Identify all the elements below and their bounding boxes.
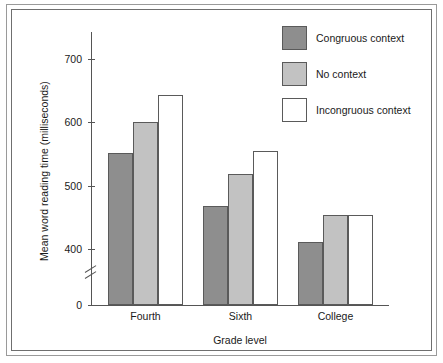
y-tick-label-400: 400 <box>46 244 82 255</box>
y-tick-500 <box>88 186 95 187</box>
legend-swatch-icon-2 <box>282 98 307 122</box>
bar-group-fourth <box>108 0 183 305</box>
y-axis-line <box>91 32 92 306</box>
x-label-college: College <box>291 310 381 322</box>
x-label-fourth: Fourth <box>101 310 191 322</box>
legend-item-1[interactable]: No context <box>282 62 432 88</box>
y-tick-700 <box>88 59 95 60</box>
y-axis-title: Mean word reading time (milliseconds) <box>38 66 50 276</box>
y-tick-400 <box>88 249 95 250</box>
y-tick-label-500: 500 <box>46 181 82 192</box>
legend-item-2[interactable]: Incongruous context <box>282 98 432 124</box>
bar-chart-plot: 4005006007000 Mean word reading time (mi… <box>0 0 443 363</box>
x-axis-title: Grade level <box>91 334 389 346</box>
y-tick-label-0: 0 <box>46 300 82 311</box>
figure-container: 4005006007000 Mean word reading time (mi… <box>0 0 443 363</box>
bar-fourth-series-0 <box>108 153 133 305</box>
y-tick-0 <box>88 305 95 306</box>
bar-fourth-series-1 <box>133 122 158 305</box>
legend-item-0[interactable]: Congruous context <box>282 26 432 52</box>
legend-label-1: No context <box>316 68 366 80</box>
bar-sixth-series-1 <box>228 174 253 305</box>
legend-label-2: Incongruous context <box>316 104 411 116</box>
legend-swatch-icon-0 <box>282 26 307 50</box>
legend-label-0: Congruous context <box>316 32 404 44</box>
chart-legend: Congruous contextNo contextIncongruous c… <box>282 26 432 134</box>
bar-college-series-0 <box>298 242 323 305</box>
bar-college-series-1 <box>323 215 348 305</box>
bar-sixth-series-2 <box>253 151 278 305</box>
axis-break-icon <box>85 272 98 286</box>
y-tick-label-600: 600 <box>46 117 82 128</box>
y-tick-600 <box>88 122 95 123</box>
x-label-sixth: Sixth <box>196 310 286 322</box>
legend-swatch-icon-1 <box>282 62 307 86</box>
bar-fourth-series-2 <box>158 95 183 305</box>
bar-group-sixth <box>203 0 278 305</box>
bar-college-series-2 <box>348 215 373 305</box>
bar-sixth-series-0 <box>203 206 228 305</box>
y-tick-label-700: 700 <box>46 54 82 65</box>
x-axis-line <box>91 305 389 306</box>
